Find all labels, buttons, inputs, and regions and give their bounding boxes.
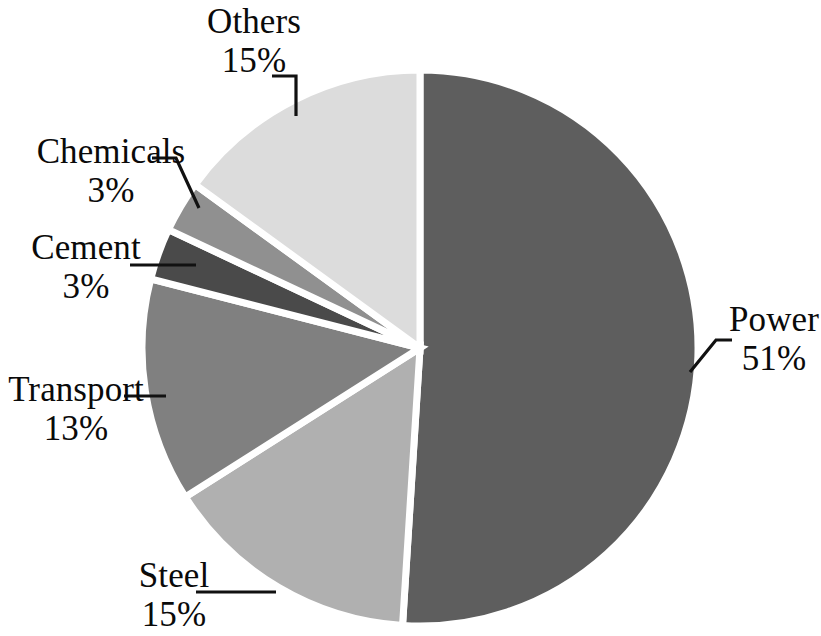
pie-label-cement-value: 3% — [14, 267, 158, 306]
pie-slice-power[interactable] — [403, 70, 698, 626]
pie-label-steel-name: Steel — [122, 556, 226, 595]
pie-chart: Others 15% Chemicals 3% Cement 3% Transp… — [0, 0, 821, 636]
pie-label-power-name: Power — [724, 300, 821, 339]
pie-label-power-value: 51% — [724, 339, 821, 378]
pie-label-others-name: Others — [188, 2, 320, 41]
pie-label-chemicals-name: Chemicals — [22, 132, 200, 171]
pie-label-transport-value: 13% — [2, 409, 150, 448]
pie-label-chemicals: Chemicals 3% — [22, 132, 200, 210]
pie-label-steel: Steel 15% — [122, 556, 226, 634]
pie-chart-canvas — [0, 0, 821, 636]
pie-label-transport-name: Transport — [2, 370, 150, 409]
pie-label-others: Others 15% — [188, 2, 320, 80]
pie-label-transport: Transport 13% — [2, 370, 150, 448]
pie-label-cement: Cement 3% — [14, 228, 158, 306]
pie-label-others-value: 15% — [188, 41, 320, 80]
pie-slices — [142, 70, 698, 626]
pie-label-chemicals-value: 3% — [22, 171, 200, 210]
pie-label-steel-value: 15% — [122, 595, 226, 634]
pie-label-cement-name: Cement — [14, 228, 158, 267]
pie-label-power: Power 51% — [724, 300, 821, 378]
